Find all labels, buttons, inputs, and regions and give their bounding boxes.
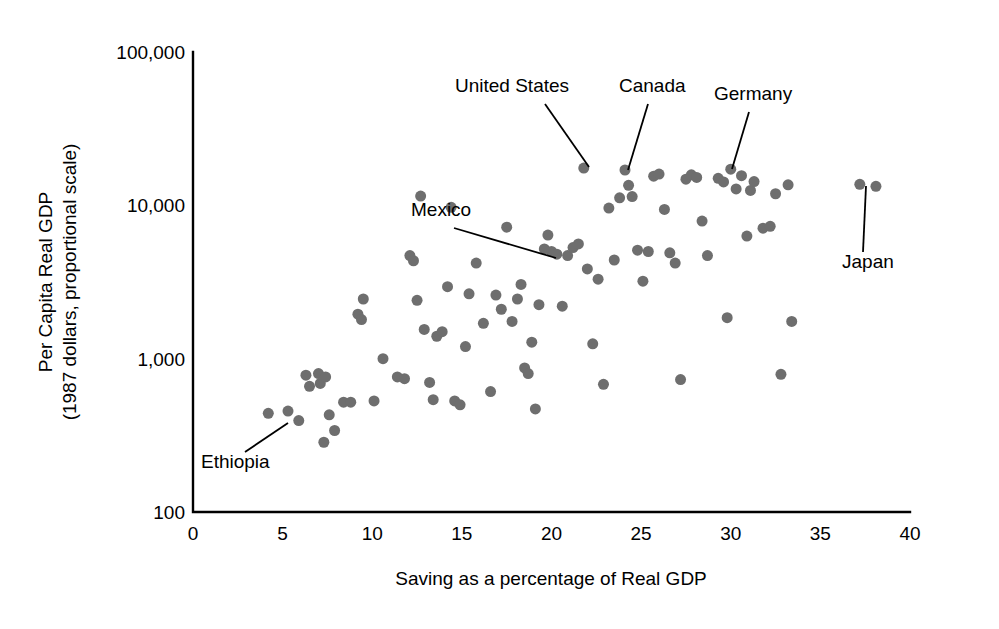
data-point [318, 437, 329, 448]
data-point [356, 314, 367, 325]
data-point [283, 406, 294, 417]
annotation-leader-line [863, 186, 866, 252]
y-tick-label: 10,000 [127, 195, 185, 216]
data-point [582, 263, 593, 274]
annotation-leader-line [454, 228, 556, 258]
data-point [369, 395, 380, 406]
data-point [603, 203, 614, 214]
annotation-label: Germany [714, 83, 793, 104]
data-point [697, 216, 708, 227]
y-tick-label: 100,000 [116, 42, 185, 63]
data-point [530, 403, 541, 414]
y-tick-label: 1,000 [137, 349, 185, 370]
data-points [263, 163, 882, 448]
data-point [587, 338, 598, 349]
data-point [609, 255, 620, 266]
data-point [533, 299, 544, 310]
data-point [490, 290, 501, 301]
data-point [637, 276, 648, 287]
x-tick-label: 15 [451, 523, 472, 544]
x-tick-label: 40 [899, 523, 920, 544]
data-point [437, 326, 448, 337]
data-point [464, 288, 475, 299]
data-point [424, 377, 435, 388]
data-point [501, 222, 512, 233]
data-point [725, 164, 736, 175]
data-point [659, 204, 670, 215]
data-point [718, 176, 729, 187]
data-point [263, 408, 274, 419]
data-point [399, 373, 410, 384]
data-point [455, 399, 466, 410]
data-point [854, 179, 865, 190]
data-point [786, 316, 797, 327]
data-point [593, 274, 604, 285]
x-tick-label: 0 [188, 523, 199, 544]
annotation-label: Ethiopia [201, 451, 270, 472]
data-point [573, 238, 584, 249]
data-point [378, 353, 389, 364]
data-point [557, 301, 568, 312]
annotation-label: Mexico [411, 199, 471, 220]
axes [193, 52, 910, 512]
data-point [731, 183, 742, 194]
y-axis-title-line1: Per Capita Real GDP [35, 192, 56, 373]
data-point [670, 258, 681, 269]
data-point [329, 425, 340, 436]
data-point [643, 246, 654, 257]
data-point [460, 341, 471, 352]
x-tick-label: 5 [277, 523, 288, 544]
data-point [691, 172, 702, 183]
data-point [632, 245, 643, 256]
x-tick-label: 20 [541, 523, 562, 544]
data-point [358, 293, 369, 304]
x-tick-label: 10 [362, 523, 383, 544]
data-point [300, 370, 311, 381]
annotation-label: Canada [619, 75, 686, 96]
data-point [345, 397, 356, 408]
data-point [749, 176, 760, 187]
x-tick-label: 30 [720, 523, 741, 544]
data-point [614, 192, 625, 203]
data-point [702, 250, 713, 261]
data-point [736, 170, 747, 181]
data-point [523, 368, 534, 379]
data-point [408, 255, 419, 266]
data-point [471, 258, 482, 269]
data-point [442, 281, 453, 292]
data-point [419, 324, 430, 335]
data-point [320, 371, 331, 382]
annotation-leader-line [628, 104, 648, 170]
annotation-label: Japan [842, 251, 894, 272]
data-point [512, 293, 523, 304]
data-point [542, 230, 553, 241]
y-tick-label: 100 [153, 502, 185, 523]
data-point [664, 247, 675, 258]
annotation-leader-line [732, 112, 749, 169]
data-point [765, 221, 776, 232]
data-point [478, 318, 489, 329]
data-point [775, 369, 786, 380]
data-point [627, 191, 638, 202]
data-point [722, 312, 733, 323]
annotation-label: United States [455, 75, 569, 96]
annotation-leader-line [545, 104, 589, 167]
data-point [741, 231, 752, 242]
scatter-chart: 1001,00010,000100,000 0510152025303540 U… [0, 0, 999, 629]
data-point [507, 316, 518, 327]
data-point [526, 337, 537, 348]
data-point [428, 394, 439, 405]
x-tick-label: 25 [631, 523, 652, 544]
y-axis-title-line2: (1987 dollars, proportional scale) [59, 144, 80, 421]
data-point [654, 169, 665, 180]
annotation-leader-line [245, 423, 288, 452]
data-point [496, 304, 507, 315]
x-axis-tick-labels: 0510152025303540 [188, 523, 921, 544]
chart-canvas: 1001,00010,000100,000 0510152025303540 U… [0, 0, 999, 629]
data-point [675, 374, 686, 385]
data-point [516, 279, 527, 290]
y-axis-tick-labels: 1001,00010,000100,000 [116, 42, 185, 523]
data-point [304, 381, 315, 392]
x-axis-title: Saving as a percentage of Real GDP [395, 568, 707, 589]
x-tick-label: 35 [810, 523, 831, 544]
